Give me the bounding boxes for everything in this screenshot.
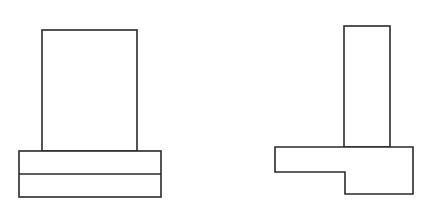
right-stepped-base [275, 147, 413, 194]
right-figure [275, 26, 413, 194]
left-column-block [42, 30, 137, 151]
diagram-canvas [0, 0, 440, 203]
left-figure [19, 30, 161, 197]
right-column-block [344, 26, 390, 147]
